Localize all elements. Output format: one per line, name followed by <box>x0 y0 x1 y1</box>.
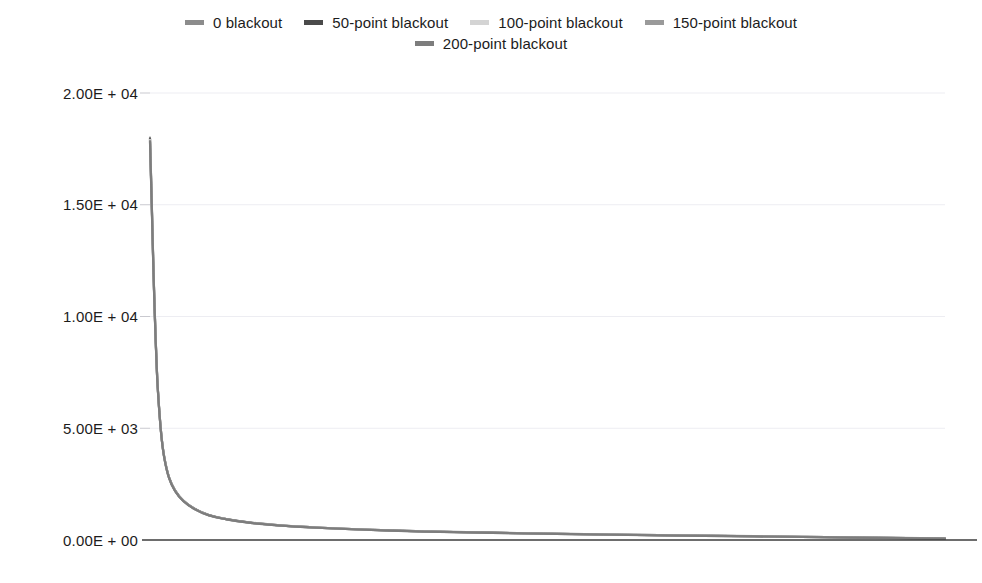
gridlines <box>150 93 945 428</box>
series-line <box>150 140 945 539</box>
plot-area: 2.00E + 04 1.50E + 04 1.00E + 04 5.00E +… <box>0 0 982 583</box>
series-line <box>150 142 945 539</box>
y-axis-line <box>140 93 150 428</box>
series-line <box>150 138 945 539</box>
chart-figure: 0 blackout 50-point blackout 100-point b… <box>0 0 982 583</box>
chart-canvas <box>0 0 982 583</box>
data-series <box>150 138 945 539</box>
series-line <box>150 139 945 539</box>
series-line <box>150 141 945 539</box>
